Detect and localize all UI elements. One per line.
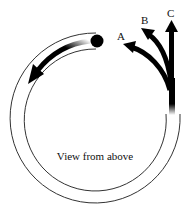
label-b: B [141, 14, 148, 26]
track-diagram: A B C View from above [0, 0, 187, 215]
motion-arrow [28, 41, 90, 84]
ball [91, 35, 104, 48]
motion-arrow-shaft [38, 41, 90, 70]
label-c: C [167, 7, 174, 19]
label-a: A [117, 30, 125, 42]
exit-paths [123, 20, 178, 115]
track [10, 33, 180, 203]
track-inner-wall [24, 49, 166, 191]
caption: View from above [57, 150, 133, 162]
track-outer-wall [10, 33, 180, 203]
